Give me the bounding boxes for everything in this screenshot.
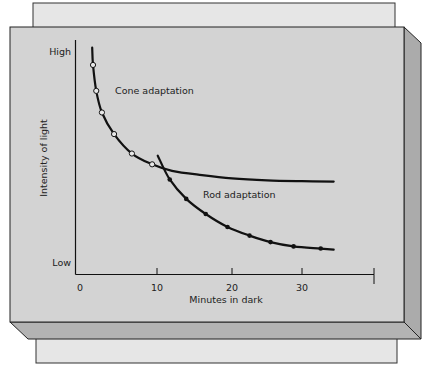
side-face-right	[404, 27, 421, 339]
y-tick-label: Low	[52, 257, 71, 268]
x-axis-label: Minutes in dark	[189, 294, 263, 305]
cone-data-point	[94, 88, 99, 93]
rod-data-point	[291, 244, 296, 249]
back-panel-top	[33, 3, 395, 29]
cone-annotation: Cone adaptation	[115, 85, 194, 96]
side-face-bottom	[10, 322, 421, 339]
rod-data-point	[247, 233, 252, 238]
dark-adaptation-chart: 0102030 LowHigh Minutes in dark Intensit…	[0, 0, 426, 368]
front-face	[10, 27, 404, 322]
figure-stage: 0102030 LowHigh Minutes in dark Intensit…	[0, 0, 426, 368]
y-axis-label: Intensity of light	[38, 119, 49, 197]
cone-data-point	[99, 110, 104, 115]
y-tick-label: High	[49, 46, 71, 57]
x-tick-label: 30	[296, 282, 308, 293]
cone-data-point	[111, 131, 116, 136]
rod-data-point	[184, 197, 189, 202]
rod-annotation: Rod adaptation	[203, 189, 275, 200]
rod-data-point	[268, 240, 273, 245]
rod-data-point	[203, 212, 208, 217]
x-tick-label: 20	[226, 282, 238, 293]
rod-data-point	[167, 177, 172, 182]
cone-data-point	[150, 162, 155, 167]
cone-data-point	[129, 151, 134, 156]
back-panel-bottom	[36, 338, 397, 363]
cone-data-point	[90, 62, 95, 67]
frame	[10, 3, 421, 363]
x-tick-label: 10	[151, 282, 163, 293]
rod-data-point	[318, 246, 323, 251]
x-tick-label: 0	[77, 282, 83, 293]
rod-data-point	[225, 225, 230, 230]
